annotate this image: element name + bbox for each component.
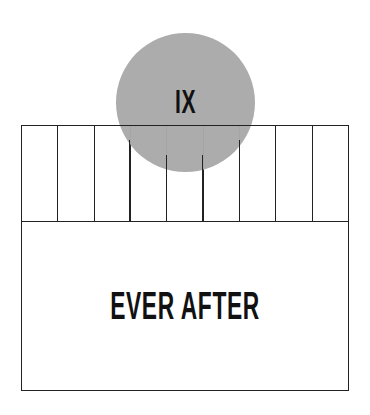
diagram-canvas: IX EVER AFTER xyxy=(0,0,370,415)
strip-column xyxy=(58,126,94,221)
strip-column xyxy=(276,126,312,221)
column-divider xyxy=(166,155,167,221)
column-divider xyxy=(239,140,240,221)
circle-label: IX xyxy=(142,82,228,120)
column-divider xyxy=(129,140,130,221)
column-divider xyxy=(202,155,203,221)
box-label: EVER AFTER xyxy=(87,284,284,328)
strip-column xyxy=(22,126,58,221)
strip-column xyxy=(95,126,131,221)
strip-column xyxy=(240,126,276,221)
strip-column xyxy=(313,126,348,221)
top-edge-line xyxy=(21,125,349,126)
